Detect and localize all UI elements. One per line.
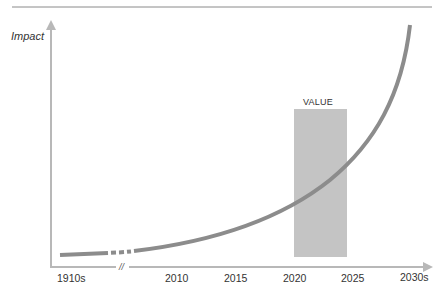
x-tick-1910s: 1910s <box>57 272 86 284</box>
y-axis-arrow-icon <box>46 20 56 30</box>
curve-early-segment <box>60 253 108 255</box>
x-tick-2020: 2020 <box>283 272 306 284</box>
chart-canvas: // <box>0 0 448 298</box>
axis-break-mark: // <box>118 262 126 272</box>
value-region <box>294 109 347 257</box>
x-tick-2010: 2010 <box>165 272 188 284</box>
x-tick-2015: 2015 <box>224 272 247 284</box>
value-region-label: VALUE <box>303 97 333 107</box>
y-axis-label: Impact <box>11 30 44 42</box>
x-tick-2025: 2025 <box>341 272 364 284</box>
impact-curve <box>134 25 410 251</box>
x-tick-2030s: 2030s <box>400 271 429 283</box>
